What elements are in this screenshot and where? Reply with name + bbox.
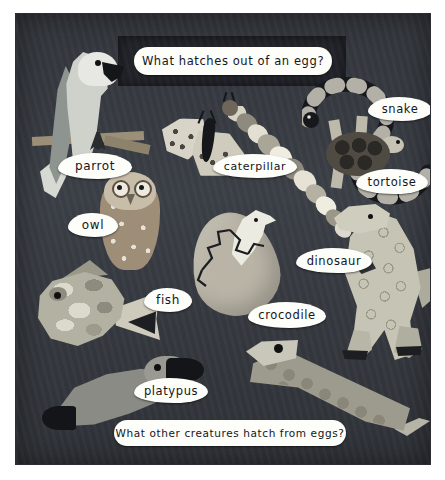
fish-body bbox=[38, 272, 128, 346]
footer-question: What other creatures hatch from eggs? bbox=[114, 420, 346, 446]
tortoise-eye bbox=[396, 140, 400, 144]
owl-pupil-right bbox=[139, 185, 144, 190]
label-dinosaur: dinosaur bbox=[296, 248, 372, 273]
label-fish: fish bbox=[144, 288, 192, 312]
platypus-eye bbox=[154, 364, 161, 371]
owl-pupil-left bbox=[117, 185, 122, 190]
dinosaur-eye bbox=[368, 214, 373, 219]
fish-eye bbox=[54, 292, 61, 299]
label-snake: snake bbox=[368, 97, 430, 121]
parrot-eye bbox=[95, 60, 101, 66]
label-tortoise: tortoise bbox=[356, 169, 428, 194]
poster-frame: What hatches out of an egg? parrot owl c… bbox=[0, 0, 445, 480]
crocodile-eye bbox=[274, 344, 283, 353]
egg-cracks bbox=[196, 214, 280, 310]
label-crocodile: crocodile bbox=[248, 302, 326, 328]
label-caterpillar: caterpillar bbox=[213, 154, 297, 178]
caterpillar-head bbox=[222, 100, 238, 116]
label-platypus: platypus bbox=[134, 378, 208, 403]
label-owl: owl bbox=[68, 213, 118, 237]
platypus-tail bbox=[42, 406, 76, 430]
label-parrot: parrot bbox=[58, 153, 132, 179]
dinosaur-foot-right bbox=[396, 346, 422, 356]
page-title: What hatches out of an egg? bbox=[134, 47, 332, 75]
dinosaur-foot-left bbox=[342, 350, 368, 360]
display-board: What hatches out of an egg? parrot owl c… bbox=[16, 14, 430, 464]
